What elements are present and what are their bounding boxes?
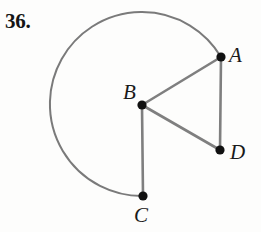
point-a <box>216 52 225 61</box>
point-label-a: A <box>229 45 242 66</box>
point-label-d: D <box>230 142 245 163</box>
point-d <box>215 145 224 154</box>
segment-bc <box>142 105 143 196</box>
geometry-figure <box>0 0 261 232</box>
arc-a-to-c <box>50 12 221 196</box>
point-b <box>137 100 146 109</box>
figure-page: 36. A B C D <box>0 0 261 232</box>
segment-db <box>142 105 220 150</box>
segment-ba <box>142 57 221 105</box>
point-label-b: B <box>123 82 136 103</box>
point-c <box>138 191 147 200</box>
point-label-c: C <box>134 205 148 226</box>
segment-ad <box>220 57 221 150</box>
